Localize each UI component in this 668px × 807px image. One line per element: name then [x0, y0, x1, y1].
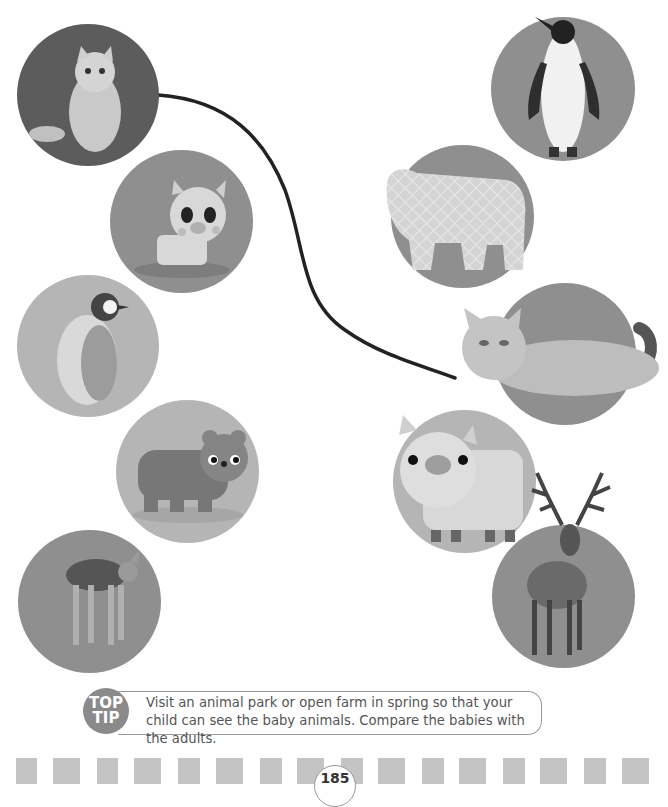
top-tip-text: Visit an animal park or open farm in spr… [146, 694, 546, 748]
piglet-icon [110, 150, 253, 293]
footer-stripe [134, 758, 161, 784]
footer-stripe [622, 758, 649, 784]
footer-stripe [260, 758, 282, 784]
bear-icon [377, 145, 537, 288]
stag-icon [492, 465, 635, 665]
penguin-chick-icon [17, 275, 159, 417]
footer-stripe [422, 758, 444, 784]
footer-stripe [584, 758, 606, 784]
footer-stripe [503, 758, 525, 784]
top-tip-badge-line2: TIP [93, 711, 120, 726]
footer-stripe [53, 758, 80, 784]
footer-stripe [16, 758, 37, 784]
circle-penguin[interactable] [491, 17, 635, 161]
footer-stripe [540, 758, 567, 784]
circle-kitten[interactable] [17, 24, 159, 166]
circle-penguin-chick[interactable] [17, 275, 159, 417]
footer-stripe [216, 758, 243, 784]
circle-bear-cub[interactable] [116, 400, 259, 543]
footer-stripe [178, 758, 200, 784]
footer-stripe [97, 758, 118, 784]
footer-stripe [378, 758, 405, 784]
circle-bear[interactable] [391, 145, 534, 288]
circle-piglet[interactable] [110, 150, 253, 293]
page-number: 185 [314, 765, 356, 807]
footer-stripe [459, 758, 486, 784]
fawn-icon [18, 530, 161, 673]
circle-stag[interactable] [492, 525, 635, 668]
kitten-icon [17, 24, 159, 166]
circle-cat[interactable] [494, 283, 636, 425]
cat-icon [449, 283, 668, 425]
penguin-icon [491, 2, 635, 162]
circle-fawn[interactable] [18, 530, 161, 673]
top-tip-badge: TOP TIP [83, 688, 129, 734]
bear-cub-icon [116, 400, 259, 543]
